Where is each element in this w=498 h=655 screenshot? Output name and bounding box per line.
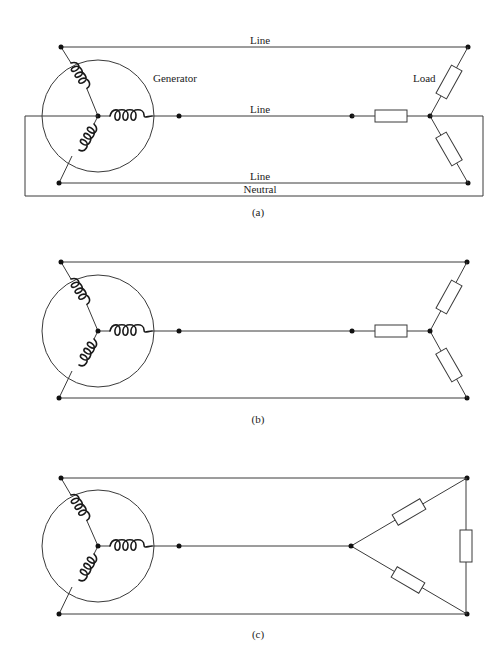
generator-coil-right-icon [110,325,152,336]
caption-b: (b) [252,413,265,426]
load-resistor-middle-icon [375,110,407,122]
load-resistor-bottom-icon [436,348,462,382]
generator-coil-top-icon [68,60,92,90]
panel-b: (b) [42,260,470,427]
load-resistor-bottom-icon [436,132,462,166]
label-line-bottom: Line [250,170,270,182]
caption-a: (a) [252,206,265,219]
generator-coil-top-icon [68,276,92,306]
panel-c: (c) [42,476,472,642]
load-resistor-lower-icon [391,567,425,594]
label-load: Load [413,72,436,84]
generator-coil-bottom-icon [76,337,99,367]
label-line-middle: Line [250,103,270,115]
load-resistor-middle-icon [375,325,407,337]
three-phase-diagrams: Line Generator Load Line Line Neutral (a… [0,0,498,655]
load-resistor-top-icon [436,65,462,99]
generator-coil-bottom-icon [76,122,99,152]
label-neutral: Neutral [244,183,277,195]
load-resistor-right-icon [460,530,472,562]
load-resistor-upper-icon [392,499,426,526]
load-resistor-top-icon [436,280,462,314]
label-generator: Generator [153,72,197,84]
panel-a: Line Generator Load Line Line Neutral (a… [25,34,483,219]
caption-c: (c) [252,628,265,641]
generator-coil-right-icon [110,110,152,121]
generator-coil-bottom-icon [76,552,99,582]
label-line-top: Line [250,34,270,46]
generator-coil-right-icon [110,540,152,551]
